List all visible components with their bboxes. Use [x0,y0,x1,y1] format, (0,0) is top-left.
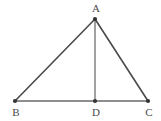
vertex-marker-c [146,99,150,103]
vertex-marker-group [13,17,150,103]
segment-ab [15,19,95,101]
triangle-diagram-canvas: A B D C [0,0,161,121]
segment-group [15,19,148,101]
vertex-label-a: A [92,2,100,14]
vertex-label-b: B [12,106,19,118]
vertex-marker-d [93,99,97,103]
vertex-label-c: C [145,106,152,118]
vertex-label-d: D [92,106,100,118]
geometry-figure: A B D C [0,0,161,121]
segment-ac [95,19,148,101]
vertex-marker-a [93,17,97,21]
vertex-marker-b [13,99,17,103]
